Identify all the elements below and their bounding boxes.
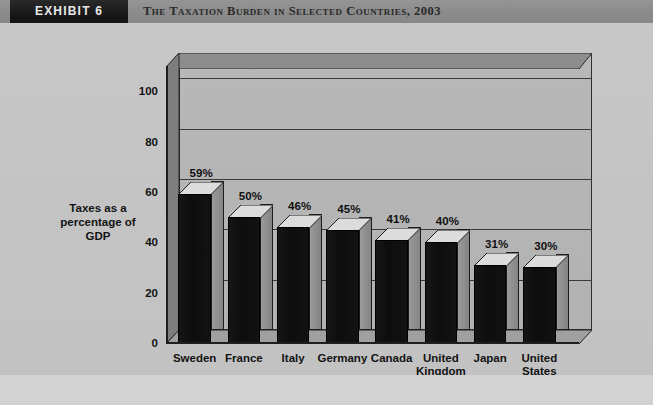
chart-canvas: Taxes as a percentage of GDP 02040608010… — [0, 23, 653, 375]
gridline — [180, 179, 592, 180]
bar — [277, 214, 310, 343]
x-axis-line — [166, 342, 579, 344]
bar-top-face — [375, 227, 421, 240]
bar-front-face — [178, 194, 211, 343]
bar — [326, 217, 359, 343]
bar-top-face — [178, 181, 224, 194]
bar-value-label: 59% — [171, 167, 231, 179]
bar-front-face — [523, 267, 556, 343]
y-axis-tick-label: 0 — [118, 337, 158, 349]
bar-value-label: 40% — [417, 215, 477, 227]
exhibit-number-label: EXHIBIT 6 — [10, 4, 128, 18]
bar-side-face — [211, 181, 224, 330]
bar-top-face — [326, 217, 372, 230]
chart-figure: The Taxation Burden in Selected Countrie… — [0, 0, 653, 405]
y-axis-tick-label: 80 — [118, 136, 158, 148]
bar-top-face — [228, 204, 274, 217]
plot-ceiling — [166, 53, 592, 69]
bar-top-face — [277, 214, 323, 227]
bar-side-face — [408, 227, 421, 330]
bar — [425, 229, 458, 343]
y-axis-tick-label: 60 — [118, 186, 158, 198]
bar-front-face — [425, 242, 458, 343]
bar-side-face — [309, 214, 322, 330]
bar-front-face — [277, 227, 310, 343]
bar-top-face — [474, 252, 520, 265]
y-axis-line — [166, 66, 168, 344]
bar-top-face — [523, 254, 569, 267]
bar-front-face — [474, 265, 507, 343]
bar-value-label: 30% — [516, 240, 576, 252]
bar — [523, 254, 556, 343]
bar — [474, 252, 507, 343]
bar-front-face — [326, 230, 359, 343]
bar-top-face — [425, 229, 471, 242]
gridline — [180, 78, 592, 79]
y-axis-tick-label: 20 — [118, 287, 158, 299]
chart-title: The Taxation Burden in Selected Countrie… — [143, 4, 441, 19]
figure-bottom-strip — [0, 375, 653, 405]
bar — [178, 181, 211, 343]
bar — [375, 227, 408, 343]
y-axis-tick-label: 40 — [118, 236, 158, 248]
bar — [228, 204, 261, 343]
gridline — [180, 129, 592, 130]
bar-side-face — [260, 204, 273, 330]
bar-front-face — [228, 217, 261, 343]
y-axis-tick-label: 100 — [118, 85, 158, 97]
bar-front-face — [375, 240, 408, 343]
bar-side-face — [359, 217, 372, 330]
